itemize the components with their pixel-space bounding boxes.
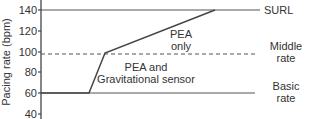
basic-rate-label-2: rate — [277, 92, 296, 104]
middle-rate-label: Middle — [270, 40, 302, 52]
surl-label: SURL — [264, 4, 293, 16]
pacing-rate-chart: 140 120 100 80 60 40 Pacing rate (bpm) S… — [0, 0, 310, 119]
y-tick-label: 120 — [19, 25, 37, 37]
pea-grav-label-2: Gravitational sensor — [97, 73, 195, 85]
pea-only-label: PEA — [170, 28, 193, 40]
y-tick-label: 80 — [25, 66, 37, 78]
y-tick-label: 100 — [19, 46, 37, 58]
pea-grav-label: PEA and — [125, 61, 168, 73]
y-axis-label: Pacing rate (bpm) — [0, 18, 12, 105]
middle-rate-label-2: rate — [277, 52, 296, 64]
y-tick-label: 40 — [25, 108, 37, 119]
pea-only-label-2: only — [171, 40, 192, 52]
y-tick-label: 60 — [25, 87, 37, 99]
basic-rate-label: Basic — [273, 80, 300, 92]
y-tick-label: 140 — [19, 4, 37, 16]
